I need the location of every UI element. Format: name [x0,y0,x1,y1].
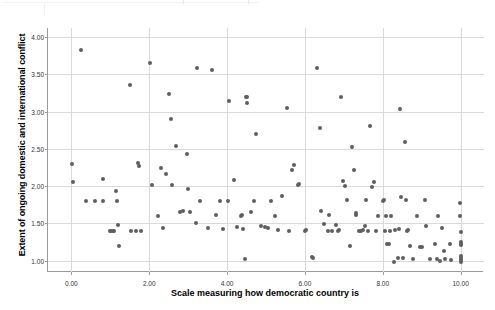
gridline-vertical [71,28,72,272]
y-axis-tick-mark [45,149,48,150]
data-point [420,245,424,249]
data-point [210,68,214,72]
data-point [276,228,280,232]
data-point [348,244,352,248]
data-point [235,225,239,229]
data-point [243,257,247,261]
x-axis-tick-label: 8.00 [376,280,389,287]
x-axis-tick-mark [305,272,306,275]
gridline-horizontal [48,186,484,187]
data-point [290,168,294,172]
data-point [227,99,231,103]
data-point [285,106,289,110]
data-point [343,184,347,188]
data-point [327,213,331,217]
data-point [128,83,132,87]
data-point [174,144,178,148]
x-axis-tick-mark [71,272,72,275]
data-point [241,227,245,231]
data-point [388,229,392,233]
data-point [134,229,138,233]
y-axis-tick-mark [45,223,48,224]
data-point [448,242,452,246]
x-axis-tick-mark [461,272,462,275]
data-point [401,256,405,260]
x-axis-title: Scale measuring how democratic country i… [47,288,483,298]
data-point [181,209,185,213]
data-point [341,179,345,183]
data-point [167,92,171,96]
data-point [194,221,198,225]
data-point [415,214,419,218]
data-point [226,199,230,203]
data-point [383,229,387,233]
gridline-horizontal [48,261,484,262]
data-point [159,166,163,170]
data-point [93,199,97,203]
data-point [352,168,356,172]
gridline-horizontal [48,74,484,75]
data-point [374,229,378,233]
data-point [185,152,189,156]
data-point [287,229,291,233]
data-point [326,229,330,233]
data-point [232,178,236,182]
data-point [396,256,400,260]
scatter-plot-chart: Extent of ongoing domestic and internati… [0,0,495,310]
y-axis-tick-mark [45,37,48,38]
x-axis-tick-mark [227,272,228,275]
y-axis-tick-label: 1.00 [31,257,44,264]
data-point [245,101,249,105]
gridline-vertical [461,28,462,272]
data-point [408,244,412,248]
data-point [115,199,119,203]
data-point [79,48,83,52]
data-point [164,172,168,176]
data-point [318,126,322,130]
data-point [112,229,116,233]
data-point [459,243,463,247]
data-point [442,249,446,253]
data-point [188,210,192,214]
gridline-vertical [305,28,306,272]
data-point [245,95,249,99]
y-axis-tick-label: 3.50 [31,71,44,78]
data-point [368,124,372,128]
x-axis-tick-label: 0.00 [65,280,78,287]
data-point [311,256,315,260]
y-axis-tick-label: 2.50 [31,145,44,152]
data-point [137,164,141,168]
data-point [249,210,253,214]
data-point [428,257,432,261]
data-point [169,117,173,121]
y-axis-tick-mark [45,74,48,75]
data-point [433,242,437,246]
data-point [423,198,427,202]
data-point [269,199,273,203]
data-point [382,198,386,202]
data-point [458,214,462,218]
data-point [114,189,118,193]
data-point [315,66,319,70]
data-point [161,226,165,230]
y-axis-title: Extent of ongoing domestic and internati… [17,20,27,270]
data-point [361,228,365,232]
data-point [440,226,444,230]
data-point [101,177,105,181]
data-point [116,223,120,227]
data-point [406,228,410,232]
data-point [397,227,401,231]
x-axis-tick-label: 10.00 [453,280,469,287]
y-axis-tick-mark [45,186,48,187]
data-point [266,226,270,230]
data-point [424,224,428,228]
top-edge-artifact-mark-right [248,0,249,4]
x-axis-tick-label: 6.00 [299,280,312,287]
data-point [84,199,88,203]
data-point [372,180,376,184]
y-axis-tick-label: 1.50 [31,220,44,227]
top-edge-artifact [2,2,260,3]
gridline-vertical [383,28,384,272]
x-axis-tick-mark [383,272,384,275]
data-point [403,140,407,144]
